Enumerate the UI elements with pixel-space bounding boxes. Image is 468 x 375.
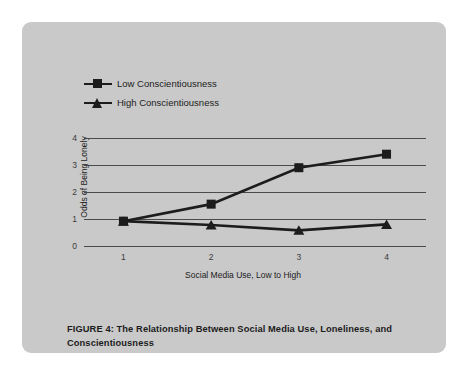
svg-text:1: 1 — [121, 252, 126, 262]
legend-item-low-conscientiousness: Low Conscientiousness — [84, 76, 304, 91]
svg-text:3: 3 — [296, 252, 301, 262]
chart-svg: 01234 1234 — [58, 130, 428, 270]
svg-text:4: 4 — [72, 133, 77, 143]
legend-item-high-conscientiousness: High Conscientiousness — [84, 95, 304, 110]
legend-square-marker-icon — [84, 78, 112, 90]
plot-area: Odds of Being Lonely 01234 1234 Social M… — [58, 130, 428, 300]
svg-text:2: 2 — [209, 252, 214, 262]
svg-text:2: 2 — [72, 187, 77, 197]
legend-triangle-marker-icon — [84, 97, 112, 109]
figure-page: Low Conscientiousness High Conscientious… — [0, 0, 468, 375]
series-low-conscientiousness — [119, 150, 391, 226]
legend-label-high-conscientiousness: High Conscientiousness — [117, 97, 219, 108]
chart-legend: Low Conscientiousness High Conscientious… — [84, 76, 304, 114]
gridlines — [84, 138, 426, 246]
legend-label-low-conscientiousness: Low Conscientiousness — [117, 78, 217, 89]
x-tick-labels: 1234 — [121, 252, 389, 262]
figure-card: Low Conscientiousness High Conscientious… — [22, 22, 446, 353]
y-tick-labels: 01234 — [72, 133, 77, 251]
svg-text:0: 0 — [72, 241, 77, 251]
svg-text:4: 4 — [384, 252, 389, 262]
svg-text:1: 1 — [72, 214, 77, 224]
x-axis-title: Social Media Use, Low to High — [58, 270, 428, 280]
svg-text:3: 3 — [72, 160, 77, 170]
figure-caption: FIGURE 4: The Relationship Between Socia… — [67, 322, 432, 350]
